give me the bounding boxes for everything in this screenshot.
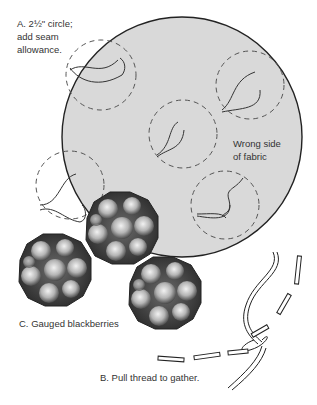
label-a-circle-note: A. 2½" circle; add seam allowance. bbox=[17, 17, 73, 56]
blackberry bbox=[86, 192, 158, 264]
label-b-pull-thread: B. Pull thread to gather. bbox=[100, 371, 199, 384]
illustration bbox=[0, 0, 317, 405]
blackberry bbox=[129, 257, 201, 329]
label-c-gauged-blackberries: C. Gauged blackberries bbox=[19, 317, 119, 330]
blackberry bbox=[19, 234, 91, 306]
label-wrong-side-of-fabric: Wrong side of fabric bbox=[233, 137, 281, 163]
